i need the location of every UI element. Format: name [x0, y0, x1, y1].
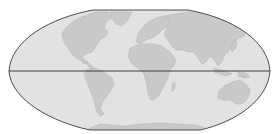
- world-map-svg: [0, 0, 279, 134]
- new-zealand: [254, 102, 259, 112]
- world-map: [0, 0, 279, 134]
- antarctica: [84, 123, 210, 134]
